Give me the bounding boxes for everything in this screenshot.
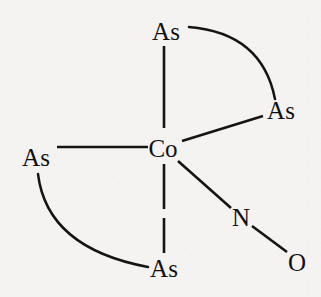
bond-n-o bbox=[252, 226, 287, 252]
atom-label-as-bottom: As bbox=[150, 255, 178, 282]
atom-label-as-top: As bbox=[152, 18, 180, 45]
chelate-arc-as-left-as-bottom bbox=[38, 174, 148, 267]
atom-label-n: N bbox=[232, 204, 250, 231]
atom-label-o: O bbox=[288, 249, 306, 276]
atom-label-as-right: As bbox=[267, 97, 295, 124]
atom-label-as-left: As bbox=[22, 144, 50, 171]
atom-label-co: Co bbox=[148, 135, 177, 162]
structure-canvas: Co As As As As N O bbox=[0, 0, 321, 297]
chelate-arc-as-top-as-right bbox=[189, 27, 275, 99]
bond-co-as-right bbox=[182, 116, 263, 141]
chemical-structure-figure: Co As As As As N O bbox=[0, 0, 321, 297]
bond-co-n bbox=[178, 161, 231, 208]
